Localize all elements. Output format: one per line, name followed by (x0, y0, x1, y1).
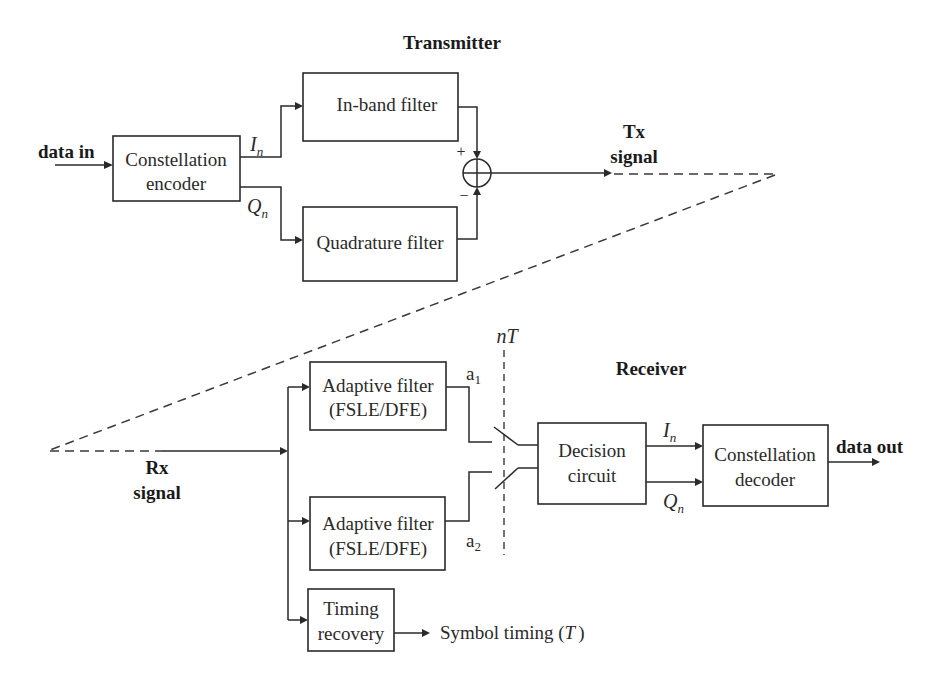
arrow-head (295, 236, 303, 244)
summer-junction (463, 159, 491, 187)
symbol-timing-label: Symbol timing (T) (440, 622, 584, 644)
qam-transceiver-diagram: Transmitter data in Constellation encode… (0, 0, 952, 688)
summer-minus-sign: − (459, 187, 468, 204)
arrow-head (604, 169, 612, 177)
arrow-head (473, 187, 481, 195)
arrow-head (695, 478, 703, 486)
transmitter-title: Transmitter (403, 32, 501, 53)
af1-label-line2: (FSLE/DFE) (329, 399, 427, 421)
sampler-switch-1 (494, 427, 538, 445)
arrow-head (422, 629, 430, 637)
data-out-label: data out (836, 436, 904, 457)
decision-circuit-block: Decision circuit (538, 423, 646, 504)
af2-output-wire (445, 472, 492, 521)
inband-filter-block: In-band filter (303, 73, 458, 141)
arrow-head (280, 447, 288, 455)
rx-signal-label-line1: Rx (145, 457, 169, 478)
data-in-label: data in (38, 141, 95, 162)
timing-recovery-block: Timing recovery (308, 589, 394, 651)
arrow-head (295, 102, 303, 110)
adaptive-filter-2-block: Adaptive filter (FSLE/DFE) (310, 497, 445, 570)
sampler-nt-label: nT (496, 325, 519, 347)
inband-filter-label: In-band filter (337, 94, 438, 115)
arrow-head (473, 151, 481, 159)
rx-in-label: In (662, 419, 676, 445)
decoder-label-line1: Constellation (714, 444, 816, 465)
tx-signal-label-line2: signal (610, 146, 658, 167)
af2-label-line1: Adaptive filter (322, 513, 434, 534)
timing-label-line1: Timing (323, 598, 379, 619)
arrow-head (695, 442, 703, 450)
af1-output-wire (446, 387, 492, 442)
rx-signal-label-line2: signal (133, 482, 181, 503)
arrow-head (302, 517, 310, 525)
encoder-label-line1: Constellation (125, 149, 227, 170)
constellation-encoder-block: Constellation encoder (113, 136, 240, 201)
sampler-switch-2 (495, 468, 538, 489)
af1-label-line1: Adaptive filter (322, 375, 434, 396)
tx-i-wire (240, 106, 298, 157)
decision-label-line1: Decision (558, 440, 626, 461)
decoder-label-line2: decoder (735, 469, 796, 490)
encoder-label-line2: encoder (146, 173, 207, 194)
adaptive-filter-1-block: Adaptive filter (FSLE/DFE) (310, 362, 446, 430)
a2-label: a2 (466, 530, 481, 554)
rx-qn-label: Qn (663, 490, 684, 516)
tx-in-label: In (249, 133, 263, 159)
af2-label-line2: (FSLE/DFE) (329, 538, 427, 560)
decision-label-line2: circuit (568, 465, 617, 486)
arrow-head (872, 458, 880, 466)
constellation-decoder-block: Constellation decoder (703, 425, 828, 506)
timing-label-line2: recovery (318, 623, 385, 644)
arrow-head (104, 161, 113, 169)
tx-signal-label-line1: Tx (623, 121, 646, 142)
quadrature-filter-block: Quadrature filter (303, 207, 457, 281)
tx-qn-label: Qn (247, 195, 268, 221)
arrow-head (302, 383, 310, 391)
quadrature-filter-label: Quadrature filter (316, 232, 444, 253)
arrow-head (300, 616, 308, 624)
summer-plus-sign: + (456, 143, 465, 160)
a1-label: a1 (466, 363, 481, 387)
receiver-title: Receiver (616, 358, 687, 379)
